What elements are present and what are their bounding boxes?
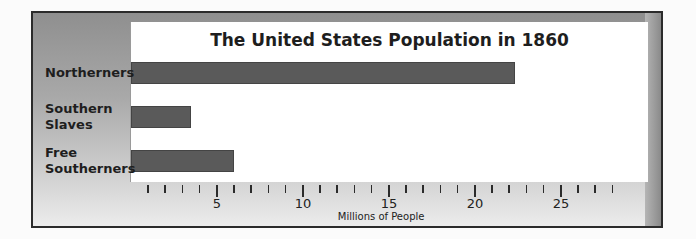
minor-tick	[594, 185, 596, 193]
minor-tick	[164, 185, 166, 193]
minor-tick	[543, 185, 545, 193]
category-label: Northerners	[45, 65, 134, 81]
chart-title: The United States Population in 1860	[131, 30, 648, 50]
tick-label: 25	[553, 196, 570, 211]
minor-tick	[199, 185, 201, 193]
x-axis-label: Millions of People	[338, 211, 425, 222]
minor-tick	[457, 185, 459, 193]
minor-tick	[250, 185, 252, 193]
plot-area: The United States Population in 1860	[130, 22, 648, 182]
bar-northerners	[131, 62, 515, 84]
minor-tick	[577, 185, 579, 193]
minor-tick	[182, 185, 184, 193]
minor-tick	[405, 185, 407, 193]
chart-frame: The United States Population in 1860 Nor…	[31, 11, 663, 228]
bar-southern-slaves	[131, 106, 191, 128]
minor-tick	[508, 185, 510, 193]
minor-tick	[354, 185, 356, 193]
minor-tick	[440, 185, 442, 193]
minor-tick	[612, 185, 614, 193]
category-label: SouthernSlaves	[45, 101, 113, 133]
minor-tick	[336, 185, 338, 193]
minor-tick	[422, 185, 424, 193]
minor-tick	[526, 185, 528, 193]
tick-label: 20	[467, 196, 484, 211]
tick-label: 10	[295, 196, 312, 211]
tick-label: 15	[381, 196, 398, 211]
category-label: FreeSoutherners	[45, 145, 135, 177]
tick-label: 5	[213, 196, 221, 211]
minor-tick	[233, 185, 235, 193]
minor-tick	[285, 185, 287, 193]
minor-tick	[371, 185, 373, 193]
minor-tick	[268, 185, 270, 193]
bar-free-southerners	[131, 150, 234, 172]
minor-tick	[147, 185, 149, 193]
minor-tick	[491, 185, 493, 193]
minor-tick	[319, 185, 321, 193]
